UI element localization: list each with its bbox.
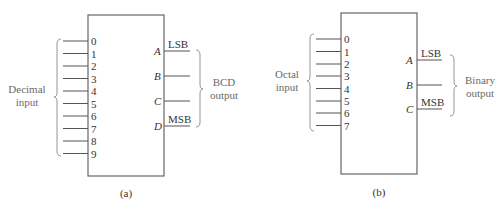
encoder-block-a <box>88 15 164 176</box>
pin-label: 4 <box>91 85 97 97</box>
input-group-label: input <box>276 81 299 93</box>
pin-label: 7 <box>91 123 97 135</box>
encoder-block-b <box>341 13 417 174</box>
octal-input-lines <box>316 39 341 126</box>
pin-label: 3 <box>344 70 350 82</box>
pin-label: 2 <box>344 58 350 70</box>
msb-tag: MSB <box>421 96 444 108</box>
input-group-label: input <box>16 96 39 108</box>
encoder-diagrams: 0 1 2 3 4 5 6 7 8 9 Decimal input A B C … <box>0 0 503 205</box>
pin-label: 7 <box>344 120 350 132</box>
output-pin-name: A <box>405 54 413 66</box>
input-brace-a <box>54 39 61 156</box>
pin-label: 2 <box>91 60 97 72</box>
output-pin-name: C <box>154 95 162 107</box>
pin-label: 1 <box>91 48 97 60</box>
pin-label: 6 <box>91 110 97 122</box>
output-pin-name: B <box>154 70 161 82</box>
caption-a: (a) <box>120 187 133 200</box>
pin-label: 0 <box>344 33 350 45</box>
pin-label: 0 <box>91 35 97 47</box>
msb-tag: MSB <box>168 113 191 125</box>
output-group-label: output <box>210 89 238 101</box>
output-pin-name: A <box>153 45 161 57</box>
output-pin-name: C <box>406 103 414 115</box>
pin-label: 6 <box>344 107 350 119</box>
pin-label: 1 <box>344 46 350 58</box>
pin-label: 9 <box>91 148 97 160</box>
output-group-label: Binary <box>465 74 495 86</box>
decimal-input-pin-labels: 0 1 2 3 4 5 6 7 8 9 <box>91 35 97 160</box>
lsb-tag: LSB <box>421 47 441 59</box>
input-group-label: Decimal <box>8 83 45 95</box>
pin-label: 3 <box>91 73 97 85</box>
pin-label: 5 <box>91 98 97 110</box>
output-group-label: BCD <box>213 76 236 88</box>
pin-label: 8 <box>91 135 97 147</box>
output-pin-name: D <box>153 120 162 132</box>
decimal-input-lines <box>63 41 88 154</box>
output-brace-b <box>450 55 457 116</box>
lsb-tag: LSB <box>168 38 188 50</box>
decimal-to-bcd-encoder: 0 1 2 3 4 5 6 7 8 9 Decimal input A B C … <box>8 15 238 200</box>
caption-b: (b) <box>373 186 386 199</box>
octal-input-pin-labels: 0 1 2 3 4 5 6 7 <box>344 33 350 132</box>
output-brace-a <box>196 50 203 127</box>
output-group-label: output <box>466 87 494 99</box>
pin-label: 4 <box>344 83 350 95</box>
pin-label: 5 <box>344 95 350 107</box>
input-brace-b <box>307 34 314 131</box>
output-pin-name: B <box>406 79 413 91</box>
input-group-label: Octal <box>275 68 299 80</box>
octal-to-binary-encoder: 0 1 2 3 4 5 6 7 Octal input A B C LSB MS… <box>275 13 495 199</box>
